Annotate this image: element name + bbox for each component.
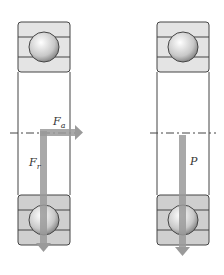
radial-arrow [40,131,47,243]
left-top-bearing-section [18,22,70,72]
equivalent-load-label: P [190,156,197,167]
left-bearing [10,22,83,252]
right-top-bearing-section [157,22,209,72]
right-bearing [150,22,216,256]
diagram-canvas [0,0,224,275]
ball-icon [29,32,59,62]
axial-force-label: Fa [53,116,65,130]
equivalent-load-arrow [179,135,186,247]
radial-force-label: Fr [29,157,40,171]
ball-icon [168,32,198,62]
